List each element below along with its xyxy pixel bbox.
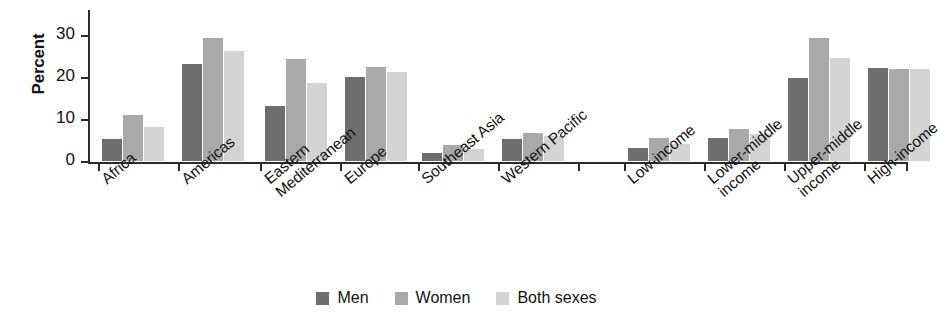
x-axis-label: Upper-middleincome [784,115,877,201]
x-axis-label: Southeast Asia [418,108,507,187]
legend-label: Both sexes [517,289,596,307]
x-axis-label: Europe [341,142,390,187]
legend-item: Both sexes [496,289,596,307]
legend-item: Men [316,289,368,307]
x-axis-label: Lower-middleincome [704,115,797,201]
legend-item: Women [395,289,471,307]
legend-swatch [395,292,408,305]
chart-legend: MenWomenBoth sexes [0,289,913,307]
legend-label: Women [416,289,471,307]
legend-swatch [496,292,509,305]
x-axis-label-line: Western Pacific [498,106,590,187]
x-axis-label-line: Europe [341,142,390,187]
x-axis-label-line: Africa [98,149,139,187]
x-axis-label: Africa [98,149,139,187]
x-axis-label: Americas [178,133,238,187]
x-axis-label-line: Southeast Asia [418,108,507,187]
legend-swatch [316,292,329,305]
x-axis-label: Low-income [624,121,698,187]
x-axis-label-line: Americas [178,133,238,187]
legend-label: Men [337,289,368,307]
x-axis-label: Western Pacific [498,106,590,187]
x-axis-label: EasternMediterranean [261,111,359,201]
x-axis-label-line: Low-income [624,121,698,187]
